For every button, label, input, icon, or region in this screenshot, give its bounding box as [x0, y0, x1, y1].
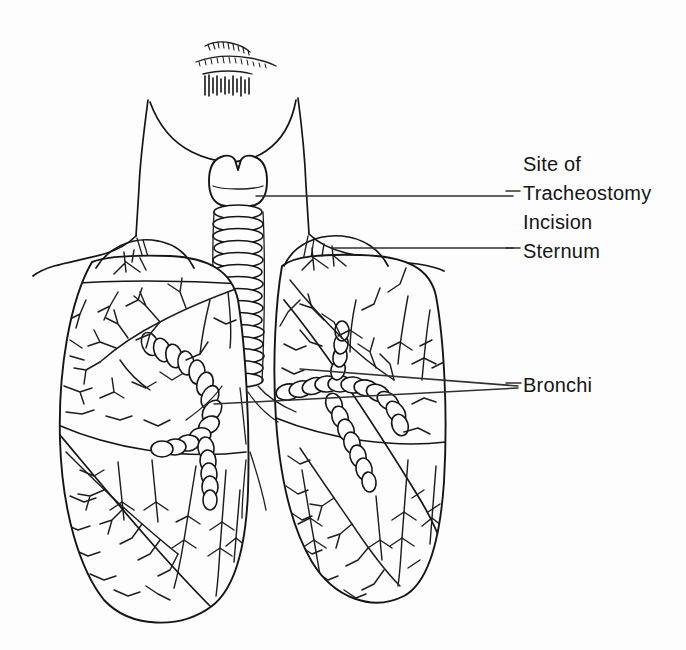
label-incision: Incision	[523, 208, 592, 237]
label-tracheostomy: Tracheostomy	[523, 179, 651, 208]
chin-and-mouth	[196, 42, 276, 96]
label-bronchi: Bronchi	[523, 371, 592, 400]
anatomy-figure: .ink { fill:none; stroke:#151515; stroke…	[0, 0, 686, 650]
diagram-page: .ink { fill:none; stroke:#151515; stroke…	[0, 0, 686, 650]
larynx	[209, 156, 267, 207]
label-sternum: Sternum	[523, 237, 600, 266]
left-lung	[60, 256, 249, 623]
label-site-of: Site of	[523, 150, 581, 179]
